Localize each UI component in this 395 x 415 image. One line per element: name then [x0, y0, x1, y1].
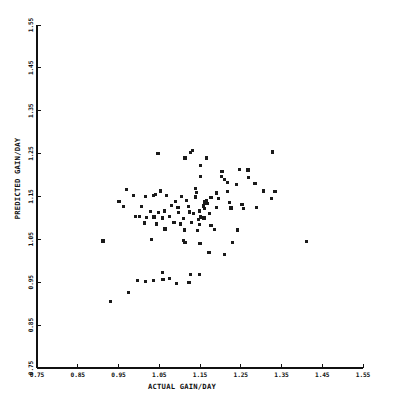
data-point [174, 200, 177, 203]
data-point [117, 200, 120, 203]
data-point [217, 197, 220, 200]
data-point [188, 210, 191, 213]
data-point [177, 211, 180, 214]
data-point [163, 209, 166, 212]
x-axis-title: ACTUAL GAIN/DAY [148, 382, 216, 391]
data-point [207, 251, 210, 254]
data-point [247, 176, 250, 179]
y-tick-label-0.85: 0.85 [27, 318, 34, 333]
data-point [179, 222, 182, 225]
data-point [156, 152, 159, 155]
data-point [194, 187, 197, 190]
y-tick-label-1.55: 1.55 [27, 17, 34, 32]
data-point [163, 227, 166, 230]
data-point [183, 241, 186, 244]
data-point [192, 212, 195, 215]
x-tick-label-0.95: 0.95 [111, 371, 126, 378]
data-point [150, 238, 153, 241]
data-point [183, 156, 186, 159]
data-point [187, 281, 190, 284]
data-point [132, 194, 135, 197]
y-axis-tick-labels: 0.750.850.951.051.151.251.351.451.55 [27, 17, 34, 375]
data-point [125, 188, 128, 191]
data-point [182, 217, 185, 220]
data-point [205, 156, 208, 159]
data-point [242, 207, 245, 210]
data-point [305, 240, 308, 243]
data-point [195, 191, 198, 194]
data-point [138, 215, 141, 218]
data-point [183, 228, 186, 231]
data-point [196, 229, 199, 232]
y-tick-label-1.45: 1.45 [27, 60, 34, 75]
x-tick-label-1.15: 1.15 [193, 371, 208, 378]
data-point [223, 253, 226, 256]
y-axis-title: PREDICTED GAIN/DAY [13, 137, 22, 219]
data-point [161, 271, 164, 274]
data-point [189, 273, 192, 276]
data-point [271, 150, 274, 153]
data-point [273, 190, 276, 193]
data-point [176, 206, 179, 209]
data-point [144, 195, 147, 198]
x-axis-tick-labels: 0.750.850.951.051.151.251.351.451.55 [30, 371, 371, 378]
data-point [255, 206, 258, 209]
y-tick-label-1.35: 1.35 [27, 103, 34, 118]
data-point [220, 170, 223, 173]
data-point [236, 228, 239, 231]
data-point [198, 223, 201, 226]
x-tick-label-1.45: 1.45 [315, 371, 330, 378]
data-point [220, 175, 223, 178]
data-point [154, 193, 157, 196]
data-point [199, 164, 202, 167]
data-point [144, 280, 147, 283]
plot-background [0, 0, 395, 415]
data-point [202, 216, 205, 219]
data-point [191, 149, 194, 152]
data-point [198, 273, 201, 276]
data-point [231, 241, 234, 244]
data-point [240, 203, 243, 206]
x-tick-label-1.05: 1.05 [152, 371, 167, 378]
data-point [199, 215, 202, 218]
x-tick-label-0.85: 0.85 [71, 371, 86, 378]
scatter-plot-figure: 0.750.850.951.051.151.251.351.451.55 0.7… [0, 0, 395, 415]
data-point [170, 204, 173, 207]
plot-canvas: 0.750.850.951.051.151.251.351.451.55 0.7… [0, 0, 395, 415]
data-point [215, 206, 218, 209]
x-tick-label-0.75: 0.75 [30, 371, 45, 378]
data-point [185, 199, 188, 202]
data-point [215, 191, 218, 194]
data-point [270, 197, 273, 200]
data-point [190, 221, 193, 224]
data-point [152, 215, 155, 218]
data-point [159, 189, 162, 192]
data-point [101, 239, 104, 242]
data-point [198, 209, 201, 212]
data-point [208, 212, 211, 215]
data-point [253, 182, 256, 185]
data-point [168, 277, 171, 280]
data-point [205, 202, 208, 205]
data-point [165, 194, 168, 197]
data-point [198, 242, 201, 245]
data-point [226, 190, 229, 193]
data-point [194, 195, 197, 198]
data-point [161, 216, 164, 219]
data-point [246, 168, 249, 171]
data-point [109, 300, 112, 303]
data-point [155, 222, 158, 225]
data-point [127, 291, 130, 294]
data-point [175, 282, 178, 285]
data-point [235, 183, 238, 186]
data-point [213, 228, 216, 231]
data-point [209, 196, 212, 199]
data-point [172, 221, 175, 224]
y-tick-label-1.25: 1.25 [27, 146, 34, 161]
data-point [187, 205, 190, 208]
data-point [145, 216, 148, 219]
data-point [238, 168, 241, 171]
data-point [223, 178, 226, 181]
data-point [152, 279, 155, 282]
data-point [199, 175, 202, 178]
